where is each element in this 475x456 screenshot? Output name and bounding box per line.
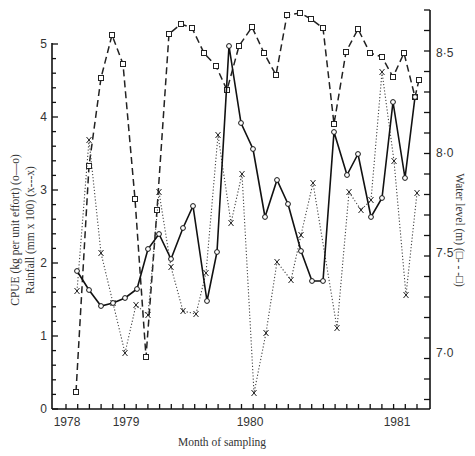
square-marker-icon (380, 55, 385, 60)
circle-marker-icon (286, 202, 291, 207)
x-marker-icon (275, 259, 280, 265)
series-rainfall (75, 69, 420, 396)
left-axis-title-rainfall: Rainfall (mm x 100) (x---x) (24, 166, 37, 294)
left-tick-labels: 0 1 2 3 4 5 (40, 37, 47, 416)
square-marker-icon (121, 62, 126, 67)
circle-marker-icon (345, 173, 350, 178)
circle-marker-icon (111, 301, 116, 306)
circle-marker-icon (310, 279, 315, 284)
cpue-line (77, 46, 415, 306)
square-marker-icon (250, 25, 255, 30)
axes (52, 10, 430, 409)
circle-marker-icon (215, 250, 220, 255)
square-marker-icon (368, 51, 373, 56)
square-marker-icon (274, 73, 279, 78)
circle-marker-icon (391, 100, 396, 105)
x-marker-icon (289, 277, 294, 283)
square-marker-icon (202, 51, 207, 56)
circle-marker-icon (332, 130, 337, 135)
right-tick-8-0: 8·0 (436, 146, 454, 160)
x-axis-title: Month of sampling (178, 436, 266, 449)
circle-marker-icon (263, 215, 268, 220)
left-tick-1: 1 (40, 329, 47, 343)
square-marker-icon (309, 17, 314, 22)
circle-marker-icon (299, 249, 304, 254)
circle-marker-icon (135, 287, 140, 292)
right-tick-7-5: 7·5 (436, 246, 454, 260)
circle-marker-icon (87, 288, 92, 293)
right-axis-title-water-level: Water level (m) (□- - -□) (453, 173, 466, 287)
square-marker-icon (417, 78, 422, 83)
square-marker-icon (237, 44, 242, 49)
circle-marker-icon (403, 176, 408, 181)
left-tick-5: 5 (40, 37, 47, 51)
square-marker-icon (402, 51, 407, 56)
square-marker-icon (190, 26, 195, 31)
circle-marker-icon (369, 215, 374, 220)
circle-marker-icon (157, 232, 162, 237)
square-marker-icon (344, 50, 349, 55)
circle-marker-icon (227, 44, 232, 49)
right-tick-8-5: 8·5 (436, 46, 454, 60)
left-tick-0: 0 (40, 402, 47, 416)
right-y-ticks (424, 10, 430, 400)
square-marker-icon (391, 75, 396, 80)
circle-marker-icon (275, 178, 280, 183)
chart-canvas: 0 1 2 3 4 5 7·0 7·5 8·0 8·5 1978 1979 19… (0, 0, 475, 456)
circle-marker-icon (181, 226, 186, 231)
x-marker-icon (311, 180, 316, 186)
x-marker-icon (204, 270, 209, 276)
square-marker-icon (179, 22, 184, 27)
square-marker-icon (144, 355, 149, 360)
x-marker-icon (359, 207, 364, 213)
x-marker-icon (87, 137, 92, 143)
square-marker-icon (356, 27, 361, 32)
square-marker-icon (298, 11, 303, 16)
circle-marker-icon (251, 147, 256, 152)
x-marker-icon (415, 190, 420, 196)
x-marker-icon (134, 302, 139, 308)
circle-marker-icon (205, 299, 210, 304)
x-marker-icon (335, 325, 340, 331)
circle-marker-icon (123, 296, 128, 301)
right-tick-7-0: 7·0 (436, 346, 454, 360)
left-axis-title-cpue: CPUE (kg per unit effort) (o—o) (9, 154, 22, 306)
x-tick-1979: 1979 (113, 415, 140, 429)
circle-marker-icon (356, 152, 361, 157)
x-tick-1981: 1981 (384, 415, 411, 429)
square-marker-icon (285, 13, 290, 18)
square-marker-icon (214, 64, 219, 69)
square-marker-icon (262, 51, 267, 56)
square-marker-icon (99, 76, 104, 81)
x-marker-icon (369, 197, 374, 203)
square-marker-icon (321, 26, 326, 31)
square-marker-icon (74, 390, 79, 395)
circle-marker-icon (380, 196, 385, 201)
circle-marker-icon (169, 257, 174, 262)
left-tick-2: 2 (40, 256, 47, 270)
circle-marker-icon (191, 204, 196, 209)
left-tick-4: 4 (40, 110, 47, 124)
circle-marker-icon (146, 247, 151, 252)
x-marker-icon (194, 311, 199, 317)
left-y-ticks (52, 44, 58, 409)
series-cpue (75, 44, 418, 309)
square-marker-icon (133, 197, 138, 202)
circle-marker-icon (99, 304, 104, 309)
x-marker-icon (229, 220, 234, 226)
circle-marker-icon (75, 269, 80, 274)
x-tick-1978: 1978 (54, 415, 81, 429)
x-marker-icon (169, 264, 174, 270)
x-tick-labels: 1978 1979 1980 1981 (54, 415, 411, 429)
x-marker-icon (75, 288, 80, 294)
x-tick-1980: 1980 (237, 415, 264, 429)
x-marker-icon (380, 69, 385, 75)
square-marker-icon (332, 122, 337, 127)
x-marker-icon (404, 292, 409, 298)
right-tick-labels: 7·0 7·5 8·0 8·5 (436, 46, 454, 360)
left-tick-3: 3 (40, 183, 47, 197)
square-marker-icon (167, 32, 172, 37)
circle-marker-icon (413, 95, 418, 100)
circle-marker-icon (239, 121, 244, 126)
x-marker-icon (392, 158, 397, 164)
